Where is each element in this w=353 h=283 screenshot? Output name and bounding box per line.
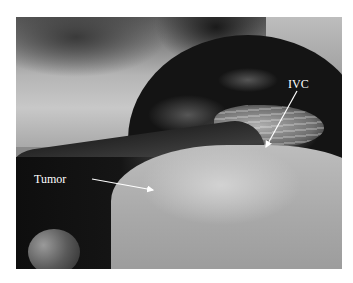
ivc-label: IVC (288, 78, 309, 90)
surgical-photograph (16, 17, 342, 269)
tumor-region (111, 145, 342, 269)
tumor-label: Tumor (34, 173, 66, 185)
small-nodule (28, 229, 80, 269)
